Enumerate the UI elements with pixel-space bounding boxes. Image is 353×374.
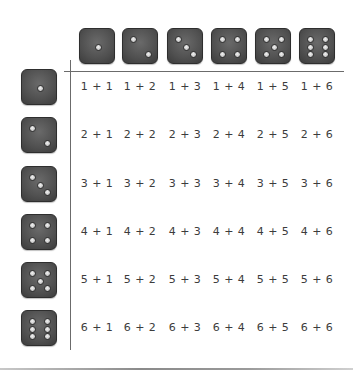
die-4-icon [21,214,57,250]
pip-icon [29,326,36,333]
sum-cell: 5 + 2 [118,273,162,287]
die-2-icon [21,117,57,153]
pip-icon [44,140,51,147]
pip-icon [190,51,197,58]
sum-cell: 6 + 6 [295,321,339,335]
pip-icon [271,44,278,51]
pip-icon [322,44,329,51]
pip-icon [322,36,329,43]
sum-cell: 2 + 5 [251,128,295,142]
sum-cell: 4 + 1 [75,225,119,239]
header-divider-horizontal [64,71,344,72]
sum-cell: 2 + 2 [118,128,162,142]
sum-cell: 5 + 6 [295,273,339,287]
pip-icon [219,51,226,58]
sum-cell: 4 + 3 [163,225,207,239]
pip-icon [29,237,36,244]
sum-cell: 3 + 3 [163,177,207,191]
sum-cell: 1 + 4 [207,80,251,94]
sum-cell: 3 + 6 [295,177,339,191]
pip-icon [234,51,241,58]
pip-icon [44,222,51,229]
pip-icon [307,44,314,51]
die-1-icon [79,28,115,64]
pip-icon [37,278,44,285]
pip-icon [44,333,51,340]
die-5-icon [255,28,291,64]
pip-icon [37,182,44,189]
sum-cell: 6 + 2 [118,321,162,335]
pip-icon [234,36,241,43]
die-3-icon [167,28,203,64]
sum-cell: 1 + 6 [295,80,339,94]
pip-icon [44,326,51,333]
sum-cell: 5 + 4 [207,273,251,287]
pip-icon [322,51,329,58]
die-6-icon [21,310,57,346]
pip-icon [307,51,314,58]
bottom-rule [0,368,353,370]
die-4-icon [211,28,247,64]
pip-icon [278,36,285,43]
sum-cell: 3 + 2 [118,177,162,191]
sum-cell: 1 + 2 [118,80,162,94]
pip-icon [44,285,51,292]
die-2-icon [122,28,158,64]
die-6-icon [299,28,335,64]
pip-icon [183,44,190,51]
sum-cell: 6 + 3 [163,321,207,335]
sum-cell: 5 + 1 [75,273,119,287]
pip-icon [175,36,182,43]
sum-cell: 2 + 4 [207,128,251,142]
header-divider-vertical [70,60,71,350]
die-1-icon [21,69,57,105]
sum-cell: 1 + 1 [75,80,119,94]
sum-cell: 4 + 2 [118,225,162,239]
pip-icon [307,36,314,43]
pip-icon [29,222,36,229]
sum-cell: 6 + 4 [207,321,251,335]
sum-cell: 4 + 5 [251,225,295,239]
pip-icon [29,270,36,277]
pip-icon [44,237,51,244]
pip-icon [29,174,36,181]
pip-icon [29,333,36,340]
pip-icon [263,36,270,43]
pip-icon [29,125,36,132]
sum-cell: 1 + 3 [163,80,207,94]
pip-icon [44,270,51,277]
pip-icon [263,51,270,58]
pip-icon [219,36,226,43]
sum-cell: 4 + 6 [295,225,339,239]
sum-cell: 6 + 5 [251,321,295,335]
pip-icon [130,36,137,43]
pip-icon [95,44,102,51]
pip-icon [29,285,36,292]
pip-icon [29,318,36,325]
pip-icon [145,51,152,58]
sum-cell: 2 + 1 [75,128,119,142]
die-5-icon [21,262,57,298]
sum-cell: 1 + 5 [251,80,295,94]
die-3-icon [21,166,57,202]
sum-cell: 2 + 3 [163,128,207,142]
sum-cell: 6 + 1 [75,321,119,335]
pip-icon [278,51,285,58]
sum-cell: 4 + 4 [207,225,251,239]
pip-icon [44,189,51,196]
pip-icon [44,318,51,325]
sum-cell: 5 + 5 [251,273,295,287]
sum-cell: 3 + 1 [75,177,119,191]
sum-cell: 2 + 6 [295,128,339,142]
sum-cell: 5 + 3 [163,273,207,287]
pip-icon [37,85,44,92]
sum-cell: 3 + 4 [207,177,251,191]
sum-cell: 3 + 5 [251,177,295,191]
